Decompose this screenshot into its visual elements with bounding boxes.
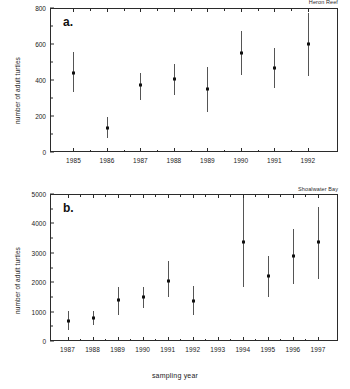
data-point-marker <box>117 298 120 301</box>
x-tick-minor <box>130 339 131 342</box>
y-tick-label: 200 <box>35 113 46 120</box>
x-tick-mark-top <box>218 194 219 198</box>
y-tick-minor <box>50 208 53 209</box>
x-tick-label: 1994 <box>235 346 250 353</box>
x-tick-label: 1989 <box>200 157 215 164</box>
panel-b: Shoalwater Bay b. number of adult turtle… <box>0 186 350 389</box>
x-tick-minor <box>230 339 231 342</box>
x-tick-mark <box>268 337 269 341</box>
x-tick-minor <box>191 150 192 153</box>
x-tick-mark-top <box>118 194 119 198</box>
x-tick-mark-top <box>274 8 275 12</box>
x-tick-label: 1992 <box>185 346 200 353</box>
x-tick-label: 1988 <box>166 157 181 164</box>
x-tick-mark <box>318 337 319 341</box>
x-tick-minor-top <box>255 194 256 197</box>
x-tick-label: 1997 <box>311 346 326 353</box>
data-point-marker <box>167 279 170 282</box>
x-tick-mark-top <box>207 8 208 12</box>
y-tick-mark <box>50 223 54 224</box>
data-point-marker <box>139 84 142 87</box>
x-tick-minor-top <box>230 194 231 197</box>
x-tick-minor-top <box>224 8 225 11</box>
y-tick-minor <box>50 62 53 63</box>
y-tick-mark <box>50 282 54 283</box>
x-tick-mark-top <box>68 194 69 198</box>
data-point-marker <box>72 71 75 74</box>
x-tick-label: 1989 <box>110 346 125 353</box>
panel-a-y-axis-label: number of adult turtles <box>14 57 21 124</box>
x-tick-minor-top <box>80 194 81 197</box>
figure-x-axis-label: sampling year <box>0 372 350 379</box>
x-tick-minor <box>280 339 281 342</box>
x-tick-minor <box>205 339 206 342</box>
y-tick-minor <box>50 296 53 297</box>
x-tick-minor-top <box>305 194 306 197</box>
x-tick-label: 1986 <box>99 157 114 164</box>
data-point-marker <box>192 300 195 303</box>
x-tick-minor-top <box>205 194 206 197</box>
x-tick-minor-top <box>155 194 156 197</box>
x-tick-mark <box>143 337 144 341</box>
x-tick-minor-top <box>258 8 259 11</box>
y-tick-minor <box>50 98 53 99</box>
y-tick-mark <box>50 252 54 253</box>
y-tick-label: 5000 <box>32 191 46 198</box>
x-tick-minor <box>155 339 156 342</box>
x-tick-mark-top <box>107 8 108 12</box>
x-tick-mark <box>293 337 294 341</box>
x-tick-label: 1990 <box>135 346 150 353</box>
x-tick-minor-top <box>180 194 181 197</box>
panel-b-letter: b. <box>63 201 74 215</box>
x-tick-mark-top <box>318 194 319 198</box>
data-point-marker <box>92 317 95 320</box>
data-point-marker <box>292 254 295 257</box>
data-point-marker <box>67 320 70 323</box>
x-tick-minor-top <box>280 194 281 197</box>
error-bar <box>318 207 319 279</box>
x-tick-mark <box>174 148 175 152</box>
x-tick-minor-top <box>191 8 192 11</box>
turtle-abundance-figure: Heron Reef a. number of adult turtles 02… <box>0 0 350 389</box>
panel-b-site-label: Shoalwater Bay <box>298 186 338 192</box>
x-tick-label: 1987 <box>133 157 148 164</box>
x-tick-mark-top <box>93 194 94 198</box>
y-tick-mark <box>50 44 54 45</box>
x-tick-mark-top <box>73 8 74 12</box>
data-point-marker <box>317 240 320 243</box>
panel-a-letter: a. <box>63 15 73 29</box>
y-tick-label: 3000 <box>32 249 46 256</box>
y-tick-minor <box>50 267 53 268</box>
x-tick-mark <box>73 148 74 152</box>
x-tick-minor-top <box>105 194 106 197</box>
x-tick-mark <box>118 337 119 341</box>
x-tick-mark <box>241 148 242 152</box>
data-point-marker <box>307 43 310 46</box>
x-tick-label: 1992 <box>300 157 315 164</box>
x-tick-mark <box>107 148 108 152</box>
y-tick-label: 800 <box>35 5 46 12</box>
y-tick-minor <box>50 26 53 27</box>
data-point-marker <box>206 88 209 91</box>
x-tick-minor <box>124 150 125 153</box>
x-tick-minor <box>80 339 81 342</box>
x-tick-minor <box>291 150 292 153</box>
y-tick-label: 4000 <box>32 220 46 227</box>
x-tick-mark-top <box>243 194 244 198</box>
data-point-marker <box>267 275 270 278</box>
x-tick-mark-top <box>168 194 169 198</box>
x-tick-mark <box>68 337 69 341</box>
panel-a: Heron Reef a. number of adult turtles 02… <box>0 0 350 178</box>
x-tick-label: 1996 <box>285 346 300 353</box>
x-tick-mark <box>274 148 275 152</box>
panel-b-y-axis-label: number of adult turtles <box>14 247 21 314</box>
x-tick-minor <box>305 339 306 342</box>
x-tick-label: 1990 <box>233 157 248 164</box>
y-tick-minor <box>50 134 53 135</box>
x-tick-mark <box>243 337 244 341</box>
x-tick-minor-top <box>291 8 292 11</box>
x-tick-label: 1991 <box>267 157 282 164</box>
data-point-marker <box>106 126 109 129</box>
y-tick-label: 0 <box>42 338 46 345</box>
x-tick-minor-top <box>124 8 125 11</box>
